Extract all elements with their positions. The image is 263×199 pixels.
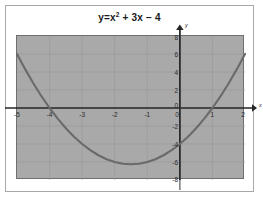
x-axis — [5, 104, 257, 112]
x-tick-label: 2 — [241, 111, 245, 118]
y-tick-label: -6 — [167, 159, 178, 166]
chart-title: y=x2 + 3x − 4 — [6, 12, 253, 23]
chart-title-prefix: y=x — [98, 12, 116, 23]
y-tick-label: -8 — [167, 176, 178, 183]
y-tick-label: -2 — [167, 123, 178, 130]
chart-title-suffix: + 3x − 4 — [120, 12, 161, 23]
y-axis-label: y — [185, 22, 188, 28]
x-tick-label: -5 — [14, 111, 20, 118]
x-axis-label: x — [259, 102, 261, 108]
plot-area: -5 -4 -3 -2 -1 0 1 2 8 6 4 2 0 -2 -4 -6 … — [16, 35, 244, 179]
x-tick-label: -3 — [79, 111, 85, 118]
x-tick-label-origin: 0 — [175, 111, 179, 118]
y-tick-label: 6 — [169, 51, 178, 58]
x-tick-label: 1 — [211, 111, 215, 118]
x-axis-arrow-icon — [252, 104, 257, 112]
x-tick-label: -4 — [47, 111, 53, 118]
plot-canvas — [5, 24, 257, 192]
y-tick-label: 4 — [169, 69, 178, 76]
y-tick-label-origin: 0 — [169, 102, 178, 109]
x-tick-label: -2 — [112, 111, 118, 118]
y-tick-label: -4 — [167, 141, 178, 148]
y-tick-label: 2 — [169, 87, 178, 94]
parabola-curve — [17, 54, 245, 164]
y-tick-label: 8 — [169, 34, 178, 41]
chart-figure: y=x2 + 3x − 4 — [5, 5, 254, 192]
y-axis-arrow-icon — [176, 25, 184, 31]
x-tick-label: -1 — [144, 111, 150, 118]
